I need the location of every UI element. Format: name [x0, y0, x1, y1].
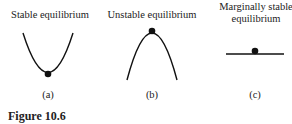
- ball-icon: [149, 28, 156, 35]
- panel-c-title-line2: equilibrium: [214, 13, 292, 25]
- panel-a-title: Stable equilibrium: [8, 9, 92, 21]
- panel-c-flat-line: [226, 48, 284, 55]
- ball-icon: [252, 48, 259, 55]
- panel-c-title-line1: Marginally stable: [214, 1, 292, 13]
- panel-a-valley-curve: [23, 33, 73, 77]
- panel-b-title: Unstable equilibrium: [104, 9, 200, 21]
- panel-c-sublabel: (c): [240, 89, 270, 100]
- ball-icon: [45, 71, 52, 78]
- panel-b-hill-curve: [127, 28, 177, 80]
- panel-b-sublabel: (b): [137, 89, 167, 100]
- figure-caption: Figure 10.6: [8, 109, 66, 124]
- panel-a-sublabel: (a): [33, 89, 63, 100]
